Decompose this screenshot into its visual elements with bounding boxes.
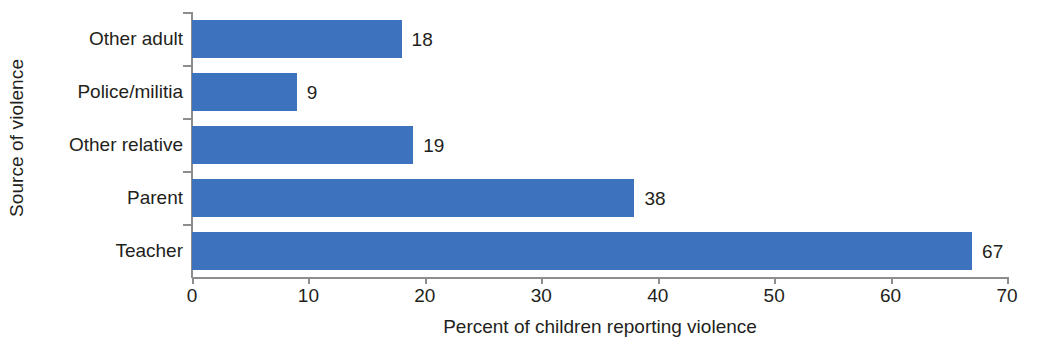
y-axis-tick <box>183 12 192 14</box>
bar-value-label: 9 <box>307 83 318 102</box>
x-axis-tick-label: 30 <box>511 286 571 305</box>
x-axis-tick <box>425 277 427 284</box>
x-axis-tick <box>308 277 310 284</box>
x-axis-tick <box>1007 277 1009 284</box>
x-axis-tick <box>192 277 194 284</box>
y-axis-tick-label: Parent <box>0 188 183 207</box>
bar <box>192 73 297 111</box>
x-axis-tick-label: 60 <box>861 286 921 305</box>
x-axis-tick-label: 10 <box>278 286 338 305</box>
y-axis-tick <box>183 118 192 120</box>
x-axis-tick <box>774 277 776 284</box>
bar-value-label: 19 <box>423 136 444 155</box>
x-axis-title: Percent of children reporting violence <box>192 316 1008 338</box>
bar <box>192 232 972 270</box>
bar-value-label: 38 <box>644 189 665 208</box>
x-axis-tick-label: 40 <box>628 286 688 305</box>
y-axis-tick <box>183 171 192 173</box>
x-axis-tick-label: 20 <box>395 286 455 305</box>
y-axis-tick <box>183 224 192 226</box>
y-axis-tick-label: Other adult <box>0 29 183 48</box>
x-axis-tick <box>891 277 893 284</box>
x-axis-line <box>192 277 1008 279</box>
x-axis-tick-label: 50 <box>744 286 804 305</box>
x-axis-tick <box>541 277 543 284</box>
bar-value-label: 18 <box>412 30 433 49</box>
y-axis-tick <box>183 65 192 67</box>
bar <box>192 179 634 217</box>
x-axis-tick-label: 0 <box>162 286 222 305</box>
bar <box>192 20 402 58</box>
bar-chart-figure: Source of violence Other adultPolice/mil… <box>0 0 1041 347</box>
bar <box>192 126 413 164</box>
y-axis-tick-label: Police/militia <box>0 82 183 101</box>
y-axis-tick-label: Other relative <box>0 135 183 154</box>
plot-area: 189193867 <box>192 12 1007 277</box>
x-axis-tick <box>658 277 660 284</box>
bar-value-label: 67 <box>982 242 1003 261</box>
y-axis-tick-label: Teacher <box>0 241 183 260</box>
x-axis-tick-label: 70 <box>977 286 1037 305</box>
